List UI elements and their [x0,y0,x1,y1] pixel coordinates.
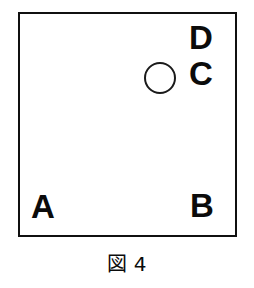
region-label-b: B [190,189,214,222]
figure-container: D C A B 図 4 [0,0,254,288]
region-label-d: D [189,21,213,54]
region-label-c: C [189,57,213,90]
figure-caption: 図 4 [0,252,254,276]
circle-marker-icon [144,62,176,94]
region-label-a: A [31,190,55,223]
